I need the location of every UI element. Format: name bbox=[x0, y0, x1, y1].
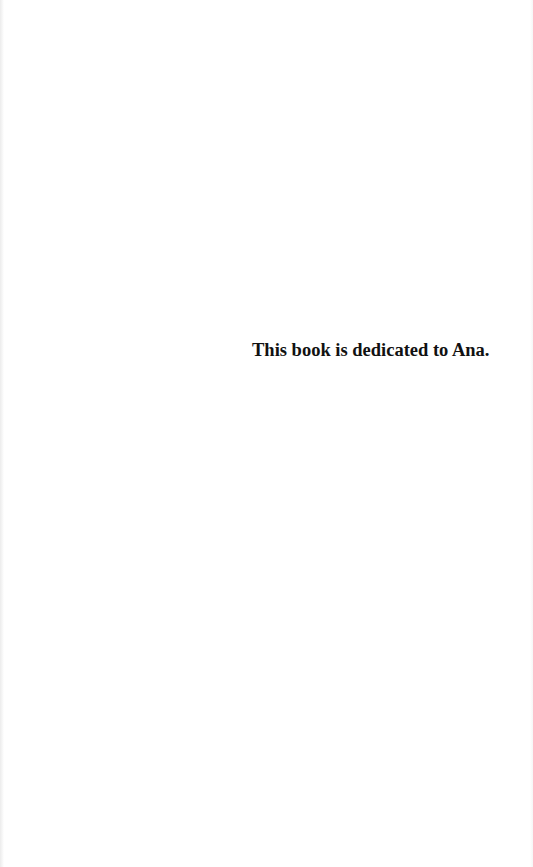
dedication-text: This book is dedicated to Ana. bbox=[252, 339, 489, 361]
page-left-edge-shadow bbox=[0, 0, 4, 867]
book-page: This book is dedicated to Ana. bbox=[0, 0, 533, 867]
